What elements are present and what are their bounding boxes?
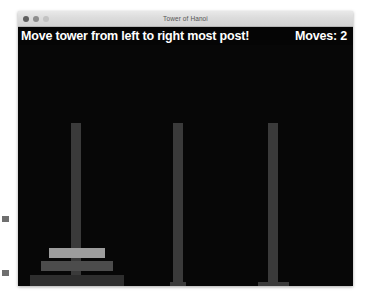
game-canvas[interactable] [18, 45, 353, 286]
zoom-button[interactable] [43, 16, 49, 22]
disk-large[interactable] [30, 275, 124, 286]
peg-middle[interactable] [173, 123, 183, 286]
moves-counter: Moves: 2 [295, 29, 347, 43]
disk-medium[interactable] [41, 261, 113, 271]
app-window: Tower of Hanoi Move tower from left to r… [18, 11, 353, 286]
status-bar: Move tower from left to right most post!… [18, 27, 353, 45]
peg-base-right [258, 282, 289, 286]
minimize-button[interactable] [33, 16, 39, 22]
close-button[interactable] [23, 16, 29, 22]
window-title: Tower of Hanoi [163, 15, 208, 22]
window-controls [23, 11, 49, 26]
disk-small[interactable] [49, 248, 105, 258]
peg-base-middle [170, 282, 186, 286]
title-bar[interactable]: Tower of Hanoi [18, 11, 353, 27]
instruction-text: Move tower from left to right most post! [21, 29, 249, 43]
peg-right[interactable] [268, 123, 278, 286]
margin-mark-upper [2, 216, 9, 222]
margin-mark-lower [2, 270, 9, 276]
